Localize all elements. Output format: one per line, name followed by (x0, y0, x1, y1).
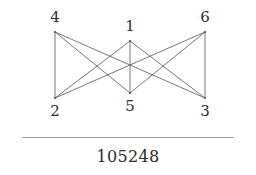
graph-edge (55, 41, 130, 98)
graph-vertex (54, 31, 56, 33)
graph-vertex (129, 92, 131, 94)
vertex-label-3: 3 (195, 104, 215, 119)
vertex-label-6: 6 (195, 10, 215, 25)
graph-vertex (54, 97, 56, 99)
graph-vertex (204, 31, 206, 33)
graph-vertex (204, 97, 206, 99)
vertex-label-5: 5 (120, 99, 140, 114)
figure-panel: 416253 105248 (0, 0, 256, 175)
vertex-label-4: 4 (45, 10, 65, 25)
graph-diagram: 416253 (0, 0, 256, 130)
graph-edge (130, 32, 205, 93)
vertex-label-1: 1 (120, 19, 140, 34)
graph-edge (130, 41, 205, 98)
graph-edge (55, 32, 130, 93)
graph-vertex (129, 40, 131, 42)
figure-caption: 105248 (0, 147, 256, 166)
caption-divider (22, 137, 234, 138)
vertex-label-2: 2 (45, 104, 65, 119)
